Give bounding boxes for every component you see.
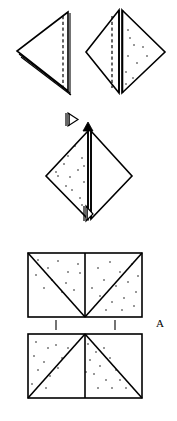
panel-rectangle-lambda-fold: [28, 334, 142, 398]
diamond-right-half: [91, 131, 132, 219]
panel-folded-diamond-right: [86, 10, 165, 93]
fold-direction-arrow-icon: [66, 113, 78, 126]
panel-stippled-diamond: [46, 113, 132, 221]
label-a: A: [156, 317, 164, 329]
fold-up-arrow-icon: [83, 122, 93, 131]
diamond-left-half: [86, 10, 119, 93]
paper-folding-diagram: A: [0, 0, 177, 421]
panel-rectangle-v-fold: [28, 253, 142, 317]
diamond-left-half: [46, 131, 88, 219]
alignment-ticks: [56, 320, 115, 330]
panel-folded-triangle-left: [17, 12, 71, 95]
triangle-outline: [17, 12, 68, 91]
diamond-right-half: [122, 10, 165, 93]
diagram-canvas: A: [0, 0, 177, 421]
